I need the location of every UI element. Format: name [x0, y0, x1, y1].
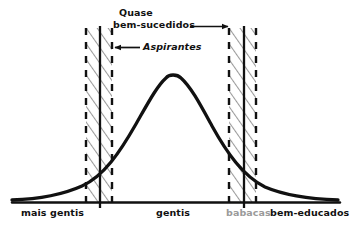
- annotation-aspirantes: Aspirantes: [143, 41, 202, 52]
- axis-label-gentis: gentis: [156, 207, 190, 218]
- band-fill-quase-bem-sucedidos: [229, 28, 256, 202]
- axis-label-mais-gentis: mais gentis: [21, 207, 84, 218]
- diagram-canvas: [0, 0, 362, 239]
- axis-label-babacas: babacas: [226, 207, 271, 218]
- bell-curve-path: [12, 75, 338, 200]
- axis-label-bem-educados: bem-educados: [270, 207, 349, 218]
- annotation-quase: Quase: [119, 7, 153, 18]
- bell-curve-diagram: Quase bem-sucedidos Aspirantes mais gent…: [0, 0, 362, 239]
- annotation-bem-sucedidos: bem-sucedidos: [113, 19, 195, 30]
